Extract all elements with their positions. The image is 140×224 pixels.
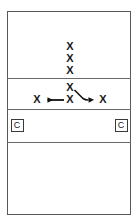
player-mark-column-2: X	[64, 53, 76, 64]
coach-marker-right: C	[115, 119, 128, 132]
coach-marker-left: C	[11, 119, 24, 132]
court-division-line-attack-lower	[7, 142, 131, 143]
player-mark-right-target: X	[97, 94, 109, 105]
player-mark-setter: X	[64, 82, 76, 93]
court-division-line-attack-upper	[7, 78, 131, 79]
player-mark-left-target: X	[31, 94, 43, 105]
court-division-line-center	[7, 109, 131, 110]
player-mark-column-3: X	[64, 65, 76, 76]
player-mark-center: X	[64, 94, 76, 105]
court-play-diagram: X X X X X X X C C	[0, 0, 140, 224]
player-mark-column-1: X	[64, 41, 76, 52]
